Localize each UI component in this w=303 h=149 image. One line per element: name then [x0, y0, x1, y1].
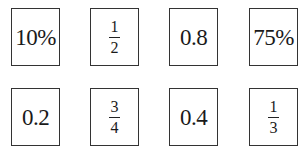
- card-10-percent: 10%: [11, 8, 60, 66]
- fraction: 1 3: [268, 99, 279, 136]
- card-three-quarters: 3 4: [90, 88, 139, 146]
- card-value: 75%: [253, 26, 294, 49]
- denominator: 3: [270, 120, 278, 136]
- card-value: 0.4: [180, 106, 207, 129]
- card-one-half: 1 2: [90, 8, 139, 66]
- numerator: 3: [111, 99, 119, 115]
- fraction-bar: [268, 117, 279, 118]
- fraction-bar: [109, 37, 120, 38]
- card-value: 10%: [15, 26, 56, 49]
- fraction-bar: [109, 117, 120, 118]
- card-75-percent: 75%: [249, 8, 298, 66]
- card-value: 0.8: [180, 26, 207, 49]
- card-0-2: 0.2: [11, 88, 60, 146]
- numerator: 1: [270, 99, 278, 115]
- card-value: 0.2: [22, 106, 49, 129]
- numerator: 1: [111, 19, 119, 35]
- fraction: 1 2: [109, 19, 120, 56]
- denominator: 4: [111, 120, 119, 136]
- card-0-4: 0.4: [169, 88, 218, 146]
- card-0-8: 0.8: [169, 8, 218, 66]
- denominator: 2: [111, 40, 119, 56]
- card-one-third: 1 3: [249, 88, 298, 146]
- fraction: 3 4: [109, 99, 120, 136]
